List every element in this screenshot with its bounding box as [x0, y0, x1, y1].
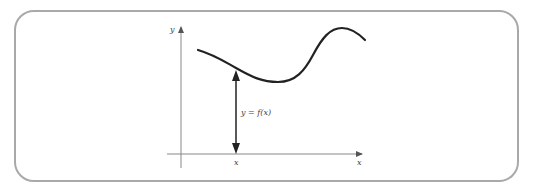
arrow-head-up-icon: [232, 70, 240, 81]
function-curve: [198, 28, 365, 82]
arrow-head-down-icon: [232, 143, 240, 154]
x-axis-label: x: [357, 159, 362, 167]
function-value-label: y = f(x): [241, 109, 271, 117]
y-axis-label: y: [170, 26, 175, 34]
x-point-label: x: [234, 159, 239, 167]
function-graph: [0, 0, 538, 190]
